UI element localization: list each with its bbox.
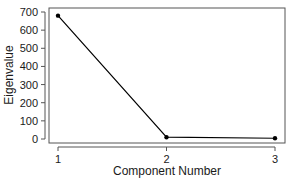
y-tick-label: 700: [20, 6, 38, 18]
data-point-marker: [273, 136, 277, 140]
series-line: [58, 16, 275, 139]
y-tick-label: 600: [20, 24, 38, 36]
data-point-marker: [164, 135, 168, 139]
y-tick-label: 400: [20, 60, 38, 72]
y-tick-label: 200: [20, 97, 38, 109]
y-tick-label: 500: [20, 42, 38, 54]
x-tick-label: 3: [272, 153, 278, 165]
y-tick-label: 100: [20, 115, 38, 127]
y-tick-label: 300: [20, 79, 38, 91]
y-axis-title: Eigenvalue: [2, 45, 16, 105]
x-axis: 123: [55, 147, 278, 165]
x-axis-title: Component Number: [113, 164, 221, 178]
y-tick-label: 0: [32, 133, 38, 145]
x-tick-label: 1: [55, 153, 61, 165]
data-point-marker: [56, 13, 60, 17]
plot-frame: [49, 8, 285, 143]
eigenvalue-series: [56, 13, 277, 140]
scree-plot: 0100200300400500600700 123 Component Num…: [0, 0, 289, 181]
y-axis: 0100200300400500600700: [20, 6, 45, 145]
